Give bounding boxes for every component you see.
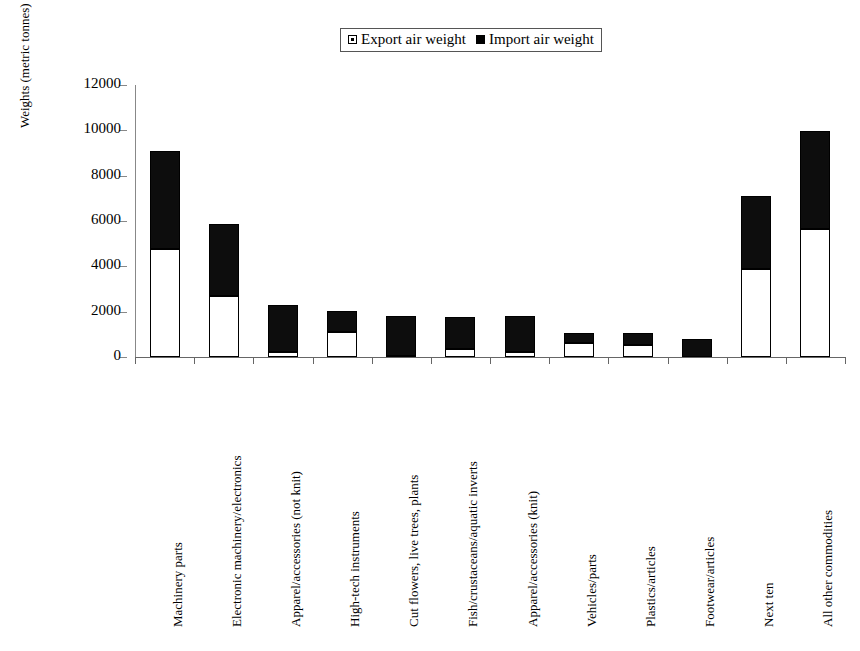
stacked-bar bbox=[327, 311, 357, 357]
x-axis-category-label: Plastics/articles bbox=[644, 546, 657, 627]
y-axis-tick-label: 12000 bbox=[84, 75, 122, 92]
stacked-bar bbox=[682, 339, 712, 357]
stacked-bar bbox=[150, 151, 180, 357]
y-axis-tick-label: 4000 bbox=[91, 256, 121, 273]
stacked-bar bbox=[386, 316, 416, 357]
x-axis-category-label: High-tech instruments bbox=[348, 511, 361, 627]
y-axis-tick: 6000 bbox=[127, 221, 135, 222]
bar-segment-export-air-weight bbox=[150, 249, 180, 357]
x-axis-category-label: Vehicles/parts bbox=[585, 554, 598, 627]
y-axis-tick-label: 10000 bbox=[84, 120, 122, 137]
y-axis-tick: 8000 bbox=[127, 176, 135, 177]
x-axis-category-label: Footwear/articles bbox=[703, 537, 716, 627]
x-axis-category-label: All other commodities bbox=[821, 510, 834, 627]
bar-segment-import-air-weight bbox=[209, 224, 239, 295]
stacked-bar bbox=[268, 305, 298, 357]
bar-segment-export-air-weight bbox=[327, 332, 357, 357]
stacked-bar bbox=[623, 333, 653, 357]
x-axis-tick-mark bbox=[668, 357, 669, 364]
y-axis-tick-label: 2000 bbox=[91, 302, 121, 319]
bar-segment-import-air-weight bbox=[564, 333, 594, 343]
x-axis-category-label: Apparel/accessories (not knit) bbox=[289, 471, 302, 627]
bar-segment-import-air-weight bbox=[800, 131, 830, 228]
y-axis-title-text: Weights (metric tonnes) bbox=[17, 3, 33, 128]
x-axis-tick-mark bbox=[135, 357, 136, 364]
stacked-bar bbox=[800, 131, 830, 357]
bar-segment-export-air-weight bbox=[505, 352, 535, 357]
x-axis-tick-mark bbox=[431, 357, 432, 364]
bar-segment-import-air-weight bbox=[741, 196, 771, 269]
x-axis-category-label: Electronic machinery/electronics bbox=[230, 456, 243, 627]
chart-legend: Export air weight Import air weight bbox=[340, 28, 602, 52]
bar-segment-import-air-weight bbox=[623, 333, 653, 345]
y-axis-tick: 0 bbox=[127, 357, 135, 358]
x-axis-category-label: Next ten bbox=[762, 583, 775, 627]
stacked-bar bbox=[445, 317, 475, 357]
bar-segment-import-air-weight bbox=[150, 151, 180, 250]
x-axis-tick-mark bbox=[194, 357, 195, 364]
x-axis-tick-mark bbox=[608, 357, 609, 364]
x-axis-tick-mark bbox=[786, 357, 787, 364]
stacked-bar bbox=[209, 224, 239, 357]
bar-segment-export-air-weight bbox=[564, 343, 594, 357]
bar-segment-export-air-weight bbox=[445, 349, 475, 357]
y-axis-line bbox=[135, 85, 136, 357]
stacked-bar bbox=[741, 196, 771, 357]
y-axis-tick: 10000 bbox=[127, 130, 135, 131]
plot-area: 020004000600080001000012000 bbox=[135, 85, 845, 357]
x-axis-category-label: Fish/crustaceans/aquatic inverts bbox=[466, 461, 479, 627]
bar-segment-import-air-weight bbox=[682, 339, 712, 357]
bar-segment-export-air-weight bbox=[800, 229, 830, 357]
bar-segment-export-air-weight bbox=[209, 296, 239, 357]
stacked-bar bbox=[564, 333, 594, 357]
bar-segment-export-air-weight bbox=[386, 355, 416, 357]
legend-label-import: Import air weight bbox=[489, 31, 594, 48]
y-axis-tick: 2000 bbox=[127, 312, 135, 313]
y-axis-tick-label: 0 bbox=[114, 347, 122, 364]
bar-segment-import-air-weight bbox=[386, 316, 416, 356]
x-axis-category-label: Machinery parts bbox=[171, 542, 184, 627]
bar-segment-import-air-weight bbox=[268, 305, 298, 353]
air-freight-stacked-bar-chart: Export air weight Import air weight Weig… bbox=[0, 0, 860, 651]
x-axis-tick-mark bbox=[253, 357, 254, 364]
x-axis-tick-mark bbox=[549, 357, 550, 364]
y-axis-tick-label: 6000 bbox=[91, 211, 121, 228]
y-axis-tick: 4000 bbox=[127, 266, 135, 267]
x-axis-tick-mark bbox=[845, 357, 846, 364]
bar-segment-export-air-weight bbox=[268, 352, 298, 357]
bar-segment-export-air-weight bbox=[623, 345, 653, 357]
stacked-bar bbox=[505, 316, 535, 357]
hollow-square-icon bbox=[348, 35, 357, 44]
bar-segment-import-air-weight bbox=[445, 317, 475, 349]
bar-segment-import-air-weight bbox=[327, 311, 357, 333]
filled-square-icon bbox=[476, 35, 485, 44]
y-axis-tick-label: 8000 bbox=[91, 166, 121, 183]
bar-segment-import-air-weight bbox=[505, 316, 535, 352]
x-axis-tick-mark bbox=[727, 357, 728, 364]
y-axis-tick: 12000 bbox=[127, 85, 135, 86]
x-axis-category-label: Cut flowers, live trees, plants bbox=[407, 475, 420, 627]
legend-entry-export: Export air weight bbox=[348, 31, 466, 48]
x-axis-tick-mark bbox=[313, 357, 314, 364]
x-axis-category-label: Apparel/accessories (knit) bbox=[526, 491, 539, 627]
bar-segment-export-air-weight bbox=[741, 269, 771, 357]
legend-entry-import: Import air weight bbox=[476, 31, 594, 48]
x-axis-tick-mark bbox=[490, 357, 491, 364]
x-axis-tick-mark bbox=[372, 357, 373, 364]
y-axis-title: Weights (metric tonnes) bbox=[17, 0, 33, 128]
legend-label-export: Export air weight bbox=[361, 31, 466, 48]
